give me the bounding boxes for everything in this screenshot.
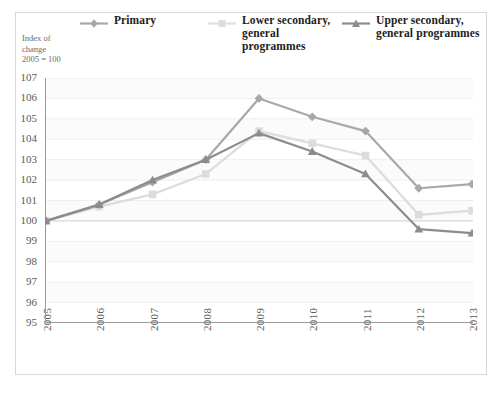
plot-svg <box>45 78 473 323</box>
chart-root: Primary Lower secondary, general program… <box>0 0 503 401</box>
legend-label-upper-secondary: Upper secondary, general programmes <box>376 14 479 40</box>
y-tick-label: 102 <box>11 174 37 185</box>
y-tick-label: 107 <box>11 72 37 83</box>
y-tick-label: 103 <box>11 154 37 165</box>
y-tick-label: 97 <box>11 276 37 287</box>
legend-label-lower-secondary: Lower secondary, general programmes <box>242 14 342 53</box>
data-point-marker <box>415 211 423 219</box>
chart-legend: Primary Lower secondary, general program… <box>80 14 480 60</box>
y-tick-label: 104 <box>11 133 37 144</box>
data-point-marker <box>308 140 316 148</box>
data-point-marker <box>468 207 473 215</box>
legend-label-primary: Primary <box>114 14 156 27</box>
y-tick-label: 99 <box>11 235 37 246</box>
legend-item-upper-secondary[interactable]: Upper secondary, general programmes <box>342 14 480 40</box>
legend-item-lower-secondary[interactable]: Lower secondary, general programmes <box>208 14 342 53</box>
plot-area <box>45 78 473 323</box>
y-tick-label: 101 <box>11 195 37 206</box>
y-tick-label: 98 <box>11 256 37 267</box>
line-triangle-marker-icon <box>342 16 370 29</box>
legend-item-primary[interactable]: Primary <box>80 14 208 29</box>
y-tick-label: 106 <box>11 92 37 103</box>
data-point-marker <box>362 152 370 160</box>
y-tick-label: 105 <box>11 113 37 124</box>
line-square-marker-icon <box>208 16 236 29</box>
line-diamond-marker-icon <box>80 16 108 29</box>
y-tick-label: 100 <box>11 215 37 226</box>
data-point-marker <box>149 191 157 199</box>
y-axis-title: Index of change 2005 = 100 <box>22 33 84 65</box>
data-point-marker <box>468 180 473 189</box>
y-tick-label: 95 <box>11 317 37 328</box>
data-point-marker <box>202 170 210 178</box>
y-tick-label: 96 <box>11 297 37 308</box>
